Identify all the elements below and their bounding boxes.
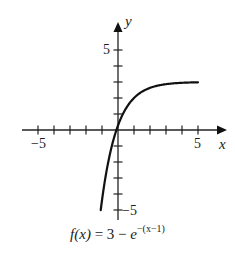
y-tick-label-neg5: −5	[122, 204, 137, 218]
caption-e: e	[130, 226, 137, 242]
caption-fx: f(x)	[70, 226, 91, 242]
function-caption: f(x) = 3 − e−(x−1)	[0, 223, 235, 243]
y-axis-arrow-icon	[114, 22, 123, 32]
y-axis-label: y	[125, 14, 132, 29]
x-axis-arrow-icon	[217, 126, 227, 135]
caption-exponent: −(x−1)	[137, 223, 165, 234]
y-tick-label-5: 5	[103, 43, 110, 57]
x-tick-label-neg5: −5	[31, 137, 46, 151]
caption-eq: = 3 −	[91, 226, 130, 242]
x-axis-label: x	[219, 137, 226, 152]
x-tick-label-5: 5	[194, 137, 201, 151]
